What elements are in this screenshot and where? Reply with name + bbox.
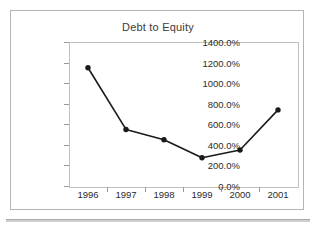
y-axis-tick-label: 400.0% — [208, 139, 240, 150]
y-axis-tick-mark — [64, 63, 69, 64]
y-axis-tick-label: 1200.0% — [202, 57, 240, 68]
y-axis-tick-mark — [64, 42, 69, 43]
x-axis-tick-mark — [107, 187, 108, 192]
y-axis-tick-label: 800.0% — [208, 98, 240, 109]
plot-area — [69, 42, 299, 188]
x-axis-tick-mark — [221, 187, 222, 192]
x-axis-tick-mark — [145, 187, 146, 192]
y-axis-tick-mark — [64, 186, 69, 187]
x-axis-tick-label: 1997 — [115, 189, 136, 200]
y-axis-tick-mark — [64, 124, 69, 125]
x-axis-tick-label: 1999 — [191, 189, 212, 200]
y-axis-tick-mark — [64, 104, 69, 105]
chart-title: Debt to Equity — [11, 21, 305, 33]
y-axis-tick-label: 200.0% — [208, 160, 240, 171]
y-axis-tick-label: 1000.0% — [202, 78, 240, 89]
bottom-separator-line — [6, 219, 310, 220]
x-axis-tick-label: 1996 — [77, 189, 98, 200]
x-axis-tick-mark — [183, 187, 184, 192]
x-axis-tick-label: 1998 — [153, 189, 174, 200]
y-axis-tick-mark — [64, 165, 69, 166]
chart-screenshot: Debt to Equity 1400.0%1200.0%1000.0%800.… — [0, 0, 316, 228]
y-axis-tick-mark — [64, 145, 69, 146]
chart-frame: Debt to Equity 1400.0%1200.0%1000.0%800.… — [10, 10, 304, 210]
x-axis-tick-label: 2000 — [229, 189, 250, 200]
y-axis-tick-label: 600.0% — [208, 119, 240, 130]
y-axis-tick-label: 1400.0% — [202, 37, 240, 48]
x-axis-tick-label: 2001 — [267, 189, 288, 200]
x-axis-tick-mark — [259, 187, 260, 192]
y-axis-tick-mark — [64, 83, 69, 84]
